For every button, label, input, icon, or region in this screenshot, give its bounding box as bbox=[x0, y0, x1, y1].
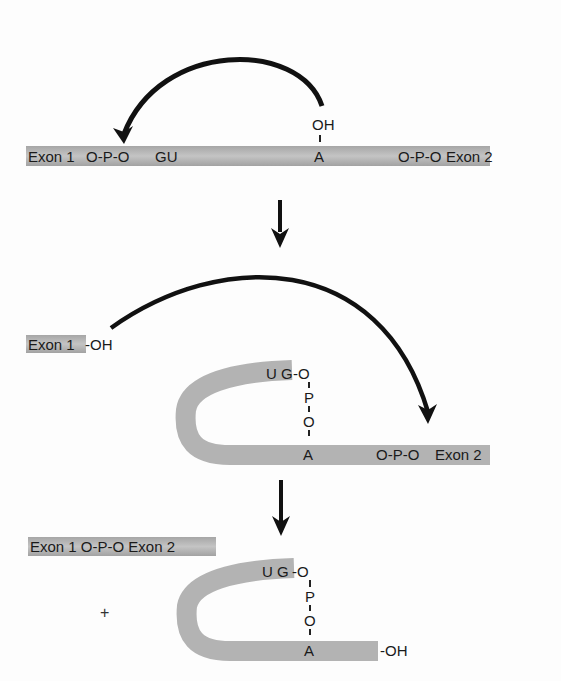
phosphate-left: O-P-O bbox=[86, 148, 129, 165]
branch-a-3: A bbox=[304, 642, 314, 659]
ug-label-3: U G bbox=[262, 563, 289, 580]
step3-group: Exon 1 O-P-O Exon 2 + U G -O P O A -OH bbox=[28, 537, 408, 659]
down-arrow-1 bbox=[271, 200, 289, 248]
branch-oh: OH bbox=[312, 116, 335, 133]
exon2-label-2: Exon 2 bbox=[435, 446, 482, 463]
down-arrow-2 bbox=[272, 480, 290, 536]
phosphate-right: O-P-O bbox=[398, 148, 441, 165]
ug-label: U G bbox=[266, 365, 293, 382]
step1-group: Exon 1 O-P-O GU OH A O-P-O Exon 2 bbox=[26, 60, 493, 166]
branch-a-2: A bbox=[303, 446, 313, 463]
link-o2-3: O bbox=[304, 612, 316, 629]
plus-sign: + bbox=[100, 604, 109, 621]
step2-group: Exon 1 -OH U G -O P O A O-P-O Exon 2 bbox=[26, 277, 490, 463]
lariat-strand bbox=[186, 370, 490, 455]
exon1-free: Exon 1 bbox=[28, 336, 75, 353]
exon1-label: Exon 1 bbox=[28, 148, 75, 165]
link-p-3: P bbox=[305, 588, 315, 605]
lariat-strand-3 bbox=[187, 568, 378, 651]
tail-oh: -OH bbox=[380, 642, 408, 659]
exon2-label: Exon 2 bbox=[446, 148, 493, 165]
link-o1: -O bbox=[293, 365, 310, 382]
link-o2: O bbox=[303, 413, 315, 430]
gu-label: GU bbox=[155, 148, 178, 165]
branch-a: A bbox=[314, 148, 324, 165]
splicing-diagram: Exon 1 O-P-O GU OH A O-P-O Exon 2 Exon 1… bbox=[0, 0, 561, 681]
exon1-oh: -OH bbox=[85, 336, 113, 353]
attack-arrow-1 bbox=[124, 60, 322, 134]
phosphate-2: O-P-O bbox=[376, 446, 419, 463]
attack-arrow-2 bbox=[111, 277, 428, 412]
link-p: P bbox=[304, 389, 314, 406]
link-o1-3: -O bbox=[292, 563, 309, 580]
ligated-label: Exon 1 O-P-O Exon 2 bbox=[30, 538, 175, 555]
arrowhead-1 bbox=[113, 126, 133, 144]
